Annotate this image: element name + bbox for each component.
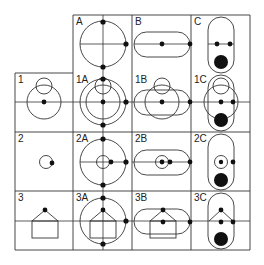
cell-label-3: 3 [18,192,24,203]
shape-1-two-circles [27,78,61,119]
shape-2c-combined [208,134,235,190]
cell-label-C: C [194,16,201,27]
cell-label-1B: 1B [135,74,148,85]
cell-label-2: 2 [18,133,24,144]
cell-label-2A: 2A [76,133,89,144]
shape-b-stadium [134,32,192,57]
cell-label-3B: 3B [135,192,148,203]
shape-c-vertical-stadium [208,17,234,73]
cell-label-2B: 2B [135,133,148,144]
shape-2b-combined [134,150,192,175]
shape-3b-combined [134,208,192,238]
cell-label-B: B [135,16,142,27]
cell-label-3C: 3C [194,192,207,203]
shape-2-small-circle [40,156,55,169]
cell-label-1A: 1A [76,74,89,85]
cell-label-1C: 1C [194,74,207,85]
shape-1c-combined [204,75,238,131]
cell-label-3A: 3A [76,192,89,203]
cell-label-A: A [76,16,83,27]
cell-label-2C: 2C [194,133,207,144]
shape-a-circle [80,19,129,69]
shape-3-house [32,208,58,238]
cell-label-1: 1 [18,74,24,85]
combination-grid-diagram: A B C 1 1A 1B 1C 2 2A 2B 2C 3 3A 3B 3C [0,0,264,265]
